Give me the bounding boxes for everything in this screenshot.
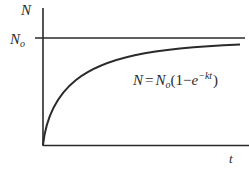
equation: N=No(1−e−kt)	[132, 70, 218, 90]
saturation-curve	[43, 45, 240, 146]
diagram-canvas: N No t N=No(1−e−kt)	[0, 0, 249, 177]
y-axis-label: N	[20, 2, 32, 18]
x-axis-label: t	[229, 151, 233, 166]
asymptote-label: No	[9, 31, 25, 49]
